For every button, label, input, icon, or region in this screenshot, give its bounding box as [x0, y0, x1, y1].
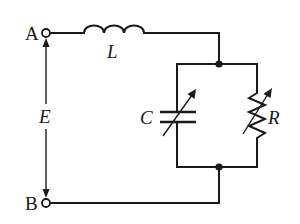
wire-inductor-to-top-junction — [144, 33, 219, 64]
terminal-a-label: A — [25, 23, 39, 44]
capacitor-c: C — [140, 64, 196, 167]
inductor-coil-icon — [84, 26, 144, 34]
inductor-l: L — [84, 26, 144, 63]
emf-arrow-down-icon — [43, 189, 50, 198]
wire-top-parallel-bus — [177, 64, 257, 98]
emf-label: E — [38, 106, 51, 127]
resistor-label: R — [267, 107, 280, 128]
top-junction-dot — [215, 60, 222, 67]
resistor-r: R — [243, 64, 280, 167]
emf-e-indicator: E — [38, 38, 51, 198]
inductor-label: L — [106, 41, 118, 62]
terminal-b-label: B — [25, 193, 38, 214]
terminal-b-node — [42, 199, 50, 207]
emf-arrow-up-icon — [43, 38, 50, 47]
circuit-diagram: A L C R B E — [0, 0, 300, 224]
resistor-variable-arrow-icon — [264, 88, 273, 98]
resistor-zigzag-icon — [249, 64, 265, 167]
terminal-a-node — [42, 29, 50, 37]
capacitor-variable-arrow-icon — [188, 89, 197, 99]
wire-bottom-junction-to-b — [50, 167, 219, 203]
capacitor-label: C — [140, 107, 153, 128]
